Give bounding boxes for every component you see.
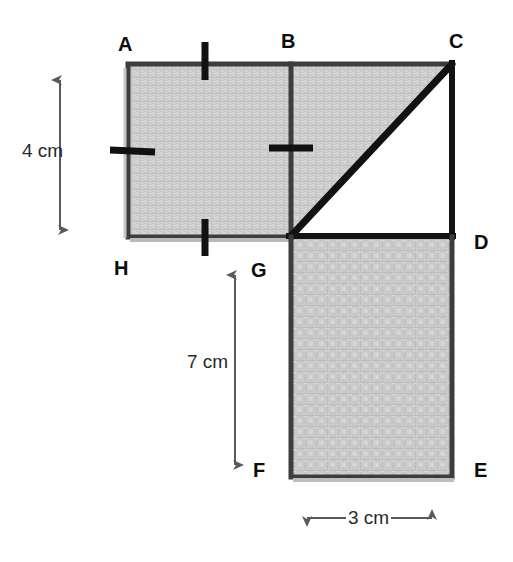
geometry-figure: A B C D E F G H 4 cm 7 cm 3 cm (0, 0, 513, 562)
region-gdef-shaded (292, 238, 451, 476)
vertex-label-a: A (118, 34, 132, 54)
vertex-label-h: H (114, 258, 128, 278)
vertex-label-d: D (474, 232, 488, 252)
vertex-label-e: E (474, 460, 487, 480)
vertex-label-g: G (251, 260, 267, 280)
vertex-label-c: C (449, 31, 463, 51)
dimension-label-7cm: 7 cm (187, 352, 228, 371)
vertex-label-b: B (281, 31, 295, 51)
dimension-label-4cm: 4 cm (22, 141, 63, 160)
dimension-label-3cm: 3 cm (346, 508, 391, 527)
tick-ah-left-icon (110, 150, 155, 152)
vertex-label-f: F (253, 460, 265, 480)
